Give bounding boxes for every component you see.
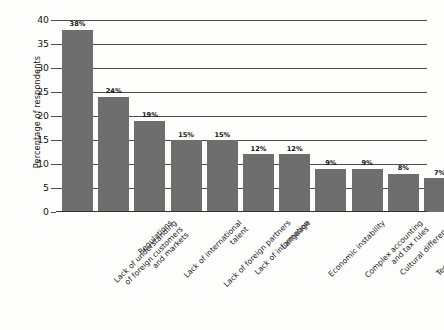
bar-slot[interactable]: 9%: [352, 20, 383, 212]
x-axis-category-label: Economic instability: [327, 219, 387, 279]
x-axis-category-label-line: and markets: [124, 231, 190, 297]
bar[interactable]: [352, 169, 383, 212]
x-axis-category-label-line: Lack of information: [254, 219, 312, 277]
x-axis-category-label-line: Economic instability: [327, 219, 387, 279]
y-axis-tick-label: 10: [37, 158, 49, 169]
x-axis-category-label: Technical standards: [435, 219, 444, 278]
bar[interactable]: [243, 154, 274, 212]
bar-value-label: 8%: [388, 164, 419, 172]
bar-value-label: 38%: [62, 20, 93, 28]
x-axis-category-label-line: Lack of international: [183, 219, 244, 280]
bar[interactable]: [424, 178, 444, 212]
bar-slot[interactable]: 12%: [243, 20, 274, 212]
y-axis-tick-mark: [51, 212, 56, 213]
bar-chart: Percentage of respondents 40353025201510…: [0, 0, 444, 330]
y-axis-tick-mark: [51, 44, 56, 45]
y-axis-tick-label: 25: [37, 86, 49, 97]
bar[interactable]: [388, 174, 419, 212]
y-axis-tick-mark: [51, 92, 56, 93]
x-axis-category-label-line: Complex accounting: [364, 219, 425, 280]
x-axis-category-label-line: and tax rules: [370, 225, 431, 286]
x-axis-category-label-line: talent: [189, 225, 250, 286]
bar-slot[interactable]: 8%: [388, 20, 419, 212]
bar-value-label: 9%: [352, 159, 383, 167]
y-axis-tick-label: 35: [37, 38, 49, 49]
y-axis-tick-label: 15: [37, 134, 49, 145]
x-axis-category-label-line: Regulations: [137, 219, 175, 257]
x-axis-category-label: Language: [279, 219, 312, 252]
x-axis-category-label-line: Technical standards: [435, 219, 444, 278]
y-axis-tick-mark: [51, 140, 56, 141]
bar-value-label: 24%: [98, 87, 129, 95]
x-axis-category-label-line: Cultural differences: [399, 219, 444, 278]
bar-slot[interactable]: 15%: [207, 20, 238, 212]
bar[interactable]: [315, 169, 346, 212]
bar-value-label: 12%: [243, 145, 274, 153]
y-axis-tick-label: 30: [37, 62, 49, 73]
bar-value-label: 9%: [315, 159, 346, 167]
y-axis-tick-mark: [51, 116, 56, 117]
y-axis-tick-mark: [51, 164, 56, 165]
bar[interactable]: [171, 140, 202, 212]
x-axis-category-label: Complex accountingand tax rules: [364, 219, 431, 286]
x-axis-category-label-line: Lack of understanding: [112, 219, 178, 285]
bar-value-label: 19%: [134, 111, 165, 119]
x-axis-category-label-line: Language: [279, 219, 312, 252]
bar[interactable]: [207, 140, 238, 212]
bar-value-label: 15%: [171, 131, 202, 139]
bar-slot[interactable]: 24%: [98, 20, 129, 212]
bar-value-label: 7%: [424, 169, 444, 177]
bar-value-label: 15%: [207, 131, 238, 139]
bar-slot[interactable]: 38%: [62, 20, 93, 212]
bar-slot[interactable]: 7%: [424, 20, 444, 212]
x-axis-category-label: Cultural differences: [399, 219, 444, 278]
x-axis-category-label: Lack of information: [254, 219, 312, 277]
x-axis-category-label-line: Lack of foreign partners: [223, 219, 293, 289]
bar[interactable]: [62, 30, 93, 212]
bar[interactable]: [279, 154, 310, 212]
y-axis-tick-label: 20: [37, 110, 49, 121]
bar-slot[interactable]: 12%: [279, 20, 310, 212]
y-axis-tick-label: 5: [43, 182, 49, 193]
x-axis-category-label: Lack of understandingof foreign customer…: [112, 219, 190, 297]
x-axis-line: [56, 211, 427, 212]
bar-slot[interactable]: 9%: [315, 20, 346, 212]
bar-value-label: 12%: [279, 145, 310, 153]
y-axis-tick-label: 0: [43, 206, 49, 217]
bar[interactable]: [98, 97, 129, 212]
bar[interactable]: [134, 121, 165, 212]
y-axis-tick-mark: [51, 68, 56, 69]
y-axis-tick-label: 40: [37, 14, 49, 25]
bar-slot[interactable]: 15%: [171, 20, 202, 212]
plot-area: 4035302520151050 38%24%19%15%15%12%12%9%…: [56, 20, 427, 212]
x-axis-category-label: Regulations: [137, 219, 175, 257]
x-axis-category-label: Lack of foreign partners: [223, 219, 293, 289]
x-axis-category-label-line: of foreign customers: [118, 225, 184, 291]
y-axis-tick-mark: [51, 188, 56, 189]
y-axis-tick-mark: [51, 20, 56, 21]
bar-slot[interactable]: 19%: [134, 20, 165, 212]
x-axis-category-label: Lack of internationaltalent: [183, 219, 250, 286]
